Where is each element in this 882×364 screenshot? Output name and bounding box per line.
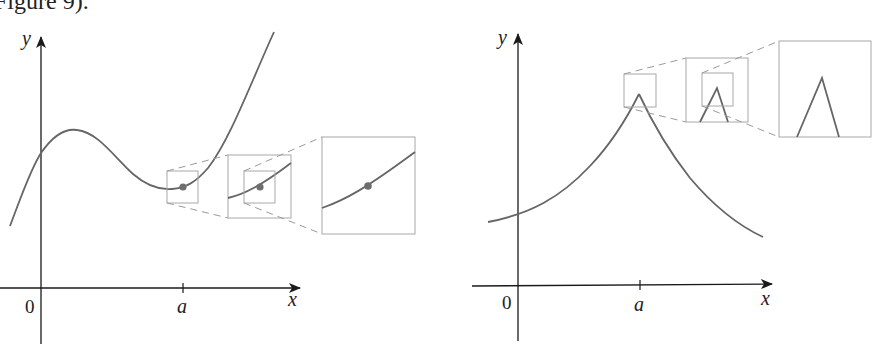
right-zoom-box-1: [624, 74, 656, 107]
right-panel: y x 0 a: [472, 26, 871, 341]
left-point-marker-1: [179, 183, 186, 190]
right-y-label: y: [496, 26, 507, 49]
left-connector-1-top: [167, 155, 228, 171]
left-point-marker-3: [364, 182, 372, 190]
figure-canvas: y x 0 a: [0, 0, 882, 364]
left-panel: y x 0 a: [0, 27, 415, 344]
right-connector-1-bottom: [624, 107, 686, 122]
left-point-marker-2: [256, 183, 263, 190]
right-origin-label: 0: [502, 292, 512, 313]
left-tick-label-a: a: [177, 295, 187, 317]
right-connector-1-top: [624, 58, 686, 74]
left-x-label: x: [287, 288, 297, 310]
figure: Figure 9). y x 0 a: [0, 0, 882, 364]
left-origin-label: 0: [25, 296, 35, 317]
left-connector-1-bottom: [167, 203, 228, 218]
right-x-label: x: [760, 287, 770, 309]
caption-fragment: Figure 9).: [0, 0, 89, 15]
left-y-label: y: [20, 27, 31, 50]
right-cusp-curve-left-branch: [488, 94, 639, 222]
right-tick-label-a: a: [634, 293, 644, 315]
right-x-axis: [472, 284, 772, 286]
